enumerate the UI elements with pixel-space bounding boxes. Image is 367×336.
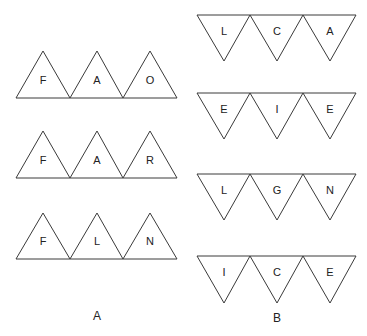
- triangle-letter: R: [146, 154, 154, 166]
- group-a-row-2: F A R: [16, 131, 177, 178]
- triangle-letter: A: [93, 154, 101, 166]
- triangle-puzzle-diagram: F A O F A R F L N A L: [0, 0, 367, 336]
- triangle-letter: E: [326, 266, 333, 278]
- triangle-letter: A: [93, 74, 101, 86]
- triangle-letter: E: [220, 103, 227, 115]
- triangle-letter: L: [221, 184, 227, 196]
- triangle-down: [250, 93, 303, 139]
- triangle-letter: F: [40, 235, 47, 247]
- triangle-letter: O: [146, 74, 155, 86]
- triangle-down: [303, 256, 356, 303]
- triangle-letter: C: [273, 266, 281, 278]
- group-b-row-4: I C E: [197, 256, 356, 303]
- triangle-letter: F: [40, 74, 47, 86]
- triangle-letter: L: [221, 25, 227, 37]
- triangle-down: [250, 174, 303, 220]
- triangle-down: [197, 256, 250, 303]
- triangle-down: [197, 93, 250, 139]
- triangle-down: [303, 174, 356, 220]
- group-b-row-2: E I E: [197, 93, 356, 139]
- triangle-down: [303, 93, 356, 139]
- group-b-row-1: L C A: [197, 15, 356, 61]
- triangle-down: [250, 256, 303, 303]
- group-b-label: B: [273, 311, 281, 325]
- group-a-row-3: F L N: [16, 213, 177, 259]
- triangle-letter: I: [275, 103, 278, 115]
- triangle-letter: A: [326, 25, 334, 37]
- triangle-letter: L: [94, 235, 100, 247]
- group-b: L C A E I E L G N I C E: [197, 15, 356, 325]
- triangle-down: [250, 15, 303, 61]
- triangle-down: [303, 15, 356, 61]
- triangle-letter: C: [273, 25, 281, 37]
- triangle-letter: N: [146, 235, 154, 247]
- triangle-letter: I: [222, 266, 225, 278]
- group-b-row-3: L G N: [197, 174, 356, 220]
- triangle-letter: E: [326, 103, 333, 115]
- triangle-down: [197, 174, 250, 220]
- group-a-row-1: F A O: [16, 51, 177, 98]
- group-a: F A O F A R F L N A: [16, 51, 177, 323]
- triangle-down: [197, 15, 250, 61]
- group-a-label: A: [93, 309, 101, 323]
- triangle-letter: F: [40, 154, 47, 166]
- triangle-letter: N: [326, 184, 334, 196]
- triangle-letter: G: [273, 184, 282, 196]
